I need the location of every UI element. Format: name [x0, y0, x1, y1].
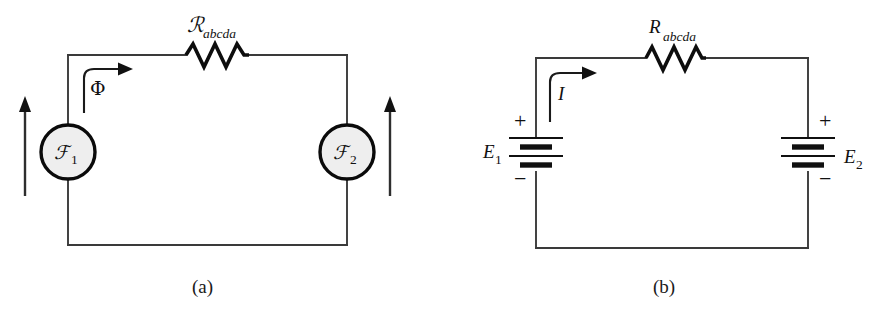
battery-e1-minus-sign: − — [514, 166, 526, 191]
mmf-source-1-subscript: 1 — [71, 152, 78, 167]
resistor-zigzag-icon — [646, 47, 706, 70]
battery-e2: + − E 2 — [781, 108, 863, 191]
resistor-element — [646, 47, 706, 70]
mmf-direction-arrow-left — [19, 96, 31, 196]
battery-e1-symbol: E — [482, 141, 495, 162]
mmf-direction-arrow-right-head-icon — [384, 96, 396, 112]
figure-root: ℛ abcda Φ ℱ 1 ℱ 2 — [0, 0, 879, 311]
battery-e2-subscript: 2 — [856, 157, 863, 172]
mmf-direction-arrow-left-head-icon — [19, 96, 31, 112]
battery-e1-subscript: 1 — [495, 152, 502, 167]
reluctance-label: ℛ abcda — [187, 13, 236, 41]
panel-b-caption: (b) — [653, 276, 675, 298]
resistance-label: R abcda — [648, 16, 696, 44]
current-arrow-shaft — [550, 73, 582, 122]
flux-label: Φ — [90, 77, 106, 99]
mmf-direction-arrow-right — [384, 96, 396, 196]
current-arrow-head-icon — [582, 67, 597, 80]
electric-circuit-svg: R abcda I + − E 1 — [440, 0, 879, 311]
mmf-source-2: ℱ 2 — [320, 125, 374, 179]
current-label: I — [557, 83, 566, 104]
reluctance-zigzag-icon — [186, 44, 249, 67]
panel-a-caption: (a) — [192, 276, 213, 298]
battery-e2-plus-sign: + — [819, 108, 831, 133]
panel-b-electric-circuit: R abcda I + − E 1 — [440, 0, 879, 311]
resistance-symbol: R — [648, 16, 661, 37]
battery-e2-minus-sign: − — [819, 166, 831, 191]
mmf-source-1: ℱ 1 — [41, 125, 95, 179]
battery-e1-plus-sign: + — [514, 108, 526, 133]
battery-e2-symbol: E — [843, 146, 856, 167]
magnetic-circuit-svg: ℛ abcda Φ ℱ 1 ℱ 2 — [0, 0, 440, 311]
mmf-source-2-subscript: 2 — [350, 152, 357, 167]
panel-a-magnetic-circuit: ℛ abcda Φ ℱ 1 ℱ 2 — [0, 0, 440, 311]
resistance-subscript: abcda — [663, 29, 696, 44]
reluctance-subscript: abcda — [203, 26, 236, 41]
flux-arrow-head-icon — [118, 63, 133, 76]
reluctance-element — [186, 44, 249, 67]
